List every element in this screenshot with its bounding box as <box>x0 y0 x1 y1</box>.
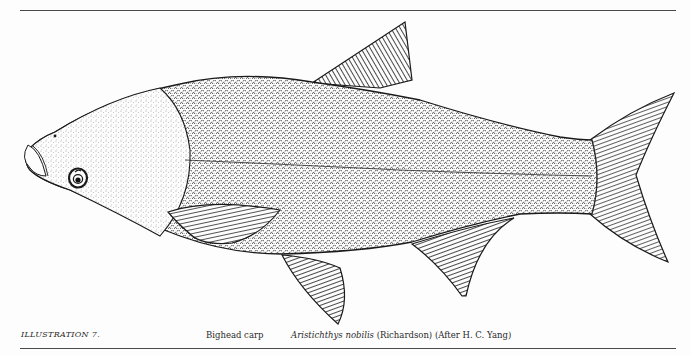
figure-caption: ILLUSTRATION 7. Bighead carp Aristichthy… <box>0 330 691 344</box>
authority: (Richardson) <box>377 330 433 340</box>
head <box>26 88 190 236</box>
caudal-fin <box>590 93 674 262</box>
illustration-page: ILLUSTRATION 7. Bighead carp Aristichthy… <box>0 0 691 356</box>
scientific-name: Aristichthys nobilis <box>291 330 374 340</box>
credit: (After H. C. Yang) <box>435 330 511 340</box>
pelvic-fin <box>282 255 345 324</box>
bottom-rule <box>20 348 676 349</box>
scientific-name-line: Aristichthys nobilis (Richardson) (After… <box>291 330 511 340</box>
illustration-number: ILLUSTRATION 7. <box>21 330 100 339</box>
dorsal-fin <box>312 22 412 88</box>
common-name: Bighead carp <box>206 330 263 340</box>
bighead-carp-illustration <box>0 0 691 330</box>
eye <box>69 169 87 188</box>
nostril <box>54 135 57 138</box>
